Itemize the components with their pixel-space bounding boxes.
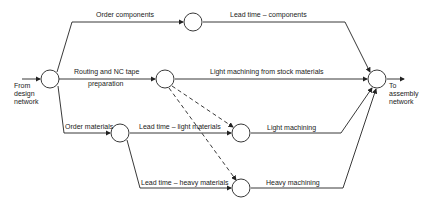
order-materials-label: Order materials bbox=[65, 123, 113, 131]
network-diagram: From design network To assembly network … bbox=[0, 0, 421, 208]
lead-time-components-label: Lead time – components bbox=[230, 11, 307, 19]
dummy-edge-heavy bbox=[169, 88, 236, 180]
node-light bbox=[232, 124, 250, 142]
edge-order-components bbox=[57, 22, 183, 72]
node-start bbox=[41, 70, 59, 88]
node-heavy bbox=[232, 179, 250, 197]
to-assembly-label: To assembly network bbox=[389, 82, 419, 106]
node-end bbox=[368, 70, 386, 88]
node-components bbox=[184, 13, 202, 31]
light-machining-label: Light machining bbox=[267, 124, 316, 132]
light-machining-stock-label: Light machining from stock materials bbox=[210, 68, 324, 76]
lead-time-light-label: Lead time – light materials bbox=[139, 123, 221, 131]
node-materials bbox=[111, 124, 129, 142]
from-design-label: From design network bbox=[14, 82, 39, 106]
diagram-graphics bbox=[0, 0, 421, 208]
dummy-edge-light bbox=[172, 86, 233, 127]
routing-label-line1: Routing and NC tape bbox=[74, 68, 139, 76]
lead-time-heavy-label: Lead time – heavy materials bbox=[141, 179, 229, 187]
heavy-machining-label: Heavy machining bbox=[266, 179, 320, 187]
routing-label-line2: preparation bbox=[88, 80, 123, 88]
node-routing bbox=[156, 70, 174, 88]
edge-heavy-machining bbox=[251, 89, 376, 188]
edge-lead-time-components bbox=[203, 22, 370, 72]
order-components-label: Order components bbox=[96, 11, 154, 19]
